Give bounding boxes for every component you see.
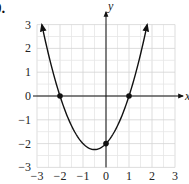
x-tick-label: 0 <box>103 169 109 183</box>
y-tick-label: 3 <box>25 18 31 32</box>
y-tick-label: −3 <box>18 160 31 174</box>
y-tick-label: 1 <box>25 65 31 79</box>
intercept-point <box>103 141 109 147</box>
parabola-chart: xy −3−2−101233210−1−2−3 <box>0 0 189 184</box>
x-tick-label: 1 <box>126 169 132 183</box>
x-tick-label: 3 <box>172 169 178 183</box>
y-tick-label: 2 <box>25 41 31 55</box>
y-tick-label: −2 <box>18 137 31 151</box>
x-tick-label: 2 <box>149 169 155 183</box>
x-tick-label: −2 <box>54 169 67 183</box>
y-tick-label: 0 <box>25 89 31 103</box>
intercept-point <box>126 93 132 99</box>
intercept-point <box>57 93 63 99</box>
x-tick-label: −3 <box>31 169 44 183</box>
y-axis-label: y <box>107 0 114 13</box>
x-axis-label: x <box>184 89 189 103</box>
tick-labels: −3−2−101233210−1−2−3 <box>18 18 178 183</box>
x-tick-label: −1 <box>77 169 90 183</box>
y-tick-label: −1 <box>18 113 31 127</box>
